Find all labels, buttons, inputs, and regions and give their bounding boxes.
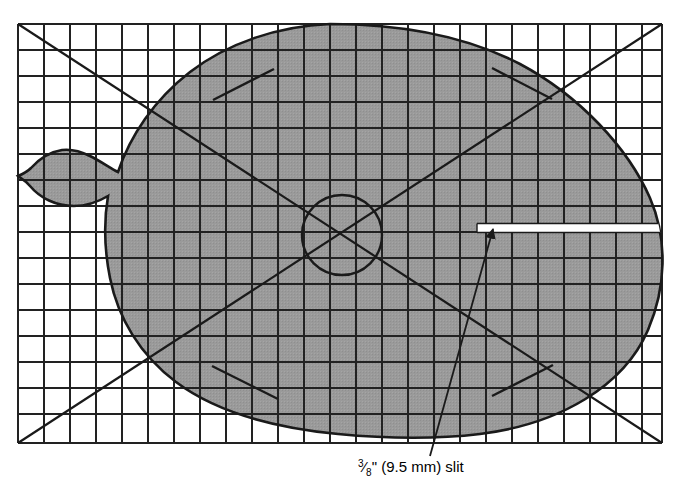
callout-label-rest: " (9.5 mm) slit: [372, 458, 465, 475]
pan-liner-diagram: 3⁄8" (9.5 mm) slit: [0, 0, 677, 484]
diagram-canvas: 3⁄8" (9.5 mm) slit: [0, 0, 677, 484]
slit-opening: [477, 224, 677, 233]
slit-group: [477, 224, 677, 233]
